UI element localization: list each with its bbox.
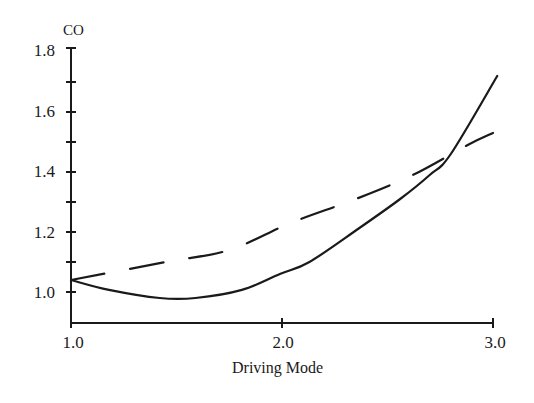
y-tick-label-1-0: 1.0: [15, 284, 55, 301]
dashed-series-line: [71, 133, 493, 280]
x-tick-label-2-0: 2.0: [258, 334, 308, 351]
y-axis: [66, 48, 76, 326]
y-tick-label-1-6: 1.6: [15, 103, 55, 120]
solid-series-line: [71, 76, 497, 299]
y-tick-label-1-8: 1.8: [15, 42, 55, 59]
y-axis-label: CO: [63, 23, 84, 38]
y-tick-label-1-2: 1.2: [15, 224, 55, 241]
x-tick-label-1-0: 1.0: [48, 334, 98, 351]
y-tick-label-1-4: 1.4: [15, 163, 55, 180]
x-axis-label: Driving Mode: [232, 360, 323, 376]
x-tick-label-3-0: 3.0: [470, 334, 520, 351]
